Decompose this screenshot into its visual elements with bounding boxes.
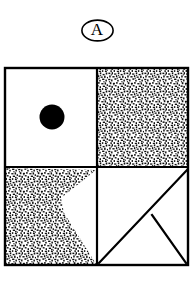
diagonal-line-branch bbox=[152, 215, 186, 263]
diagram-canvas bbox=[0, 0, 194, 297]
figure-root: A bbox=[0, 0, 194, 297]
quadrant-bottom-left-fill bbox=[5, 168, 96, 264]
diagonal-line-main bbox=[99, 170, 187, 263]
quadrant-bottom-right-lines bbox=[99, 170, 187, 263]
quadrant-top-right-fill bbox=[97, 68, 188, 167]
black-circle-marker bbox=[40, 105, 65, 130]
